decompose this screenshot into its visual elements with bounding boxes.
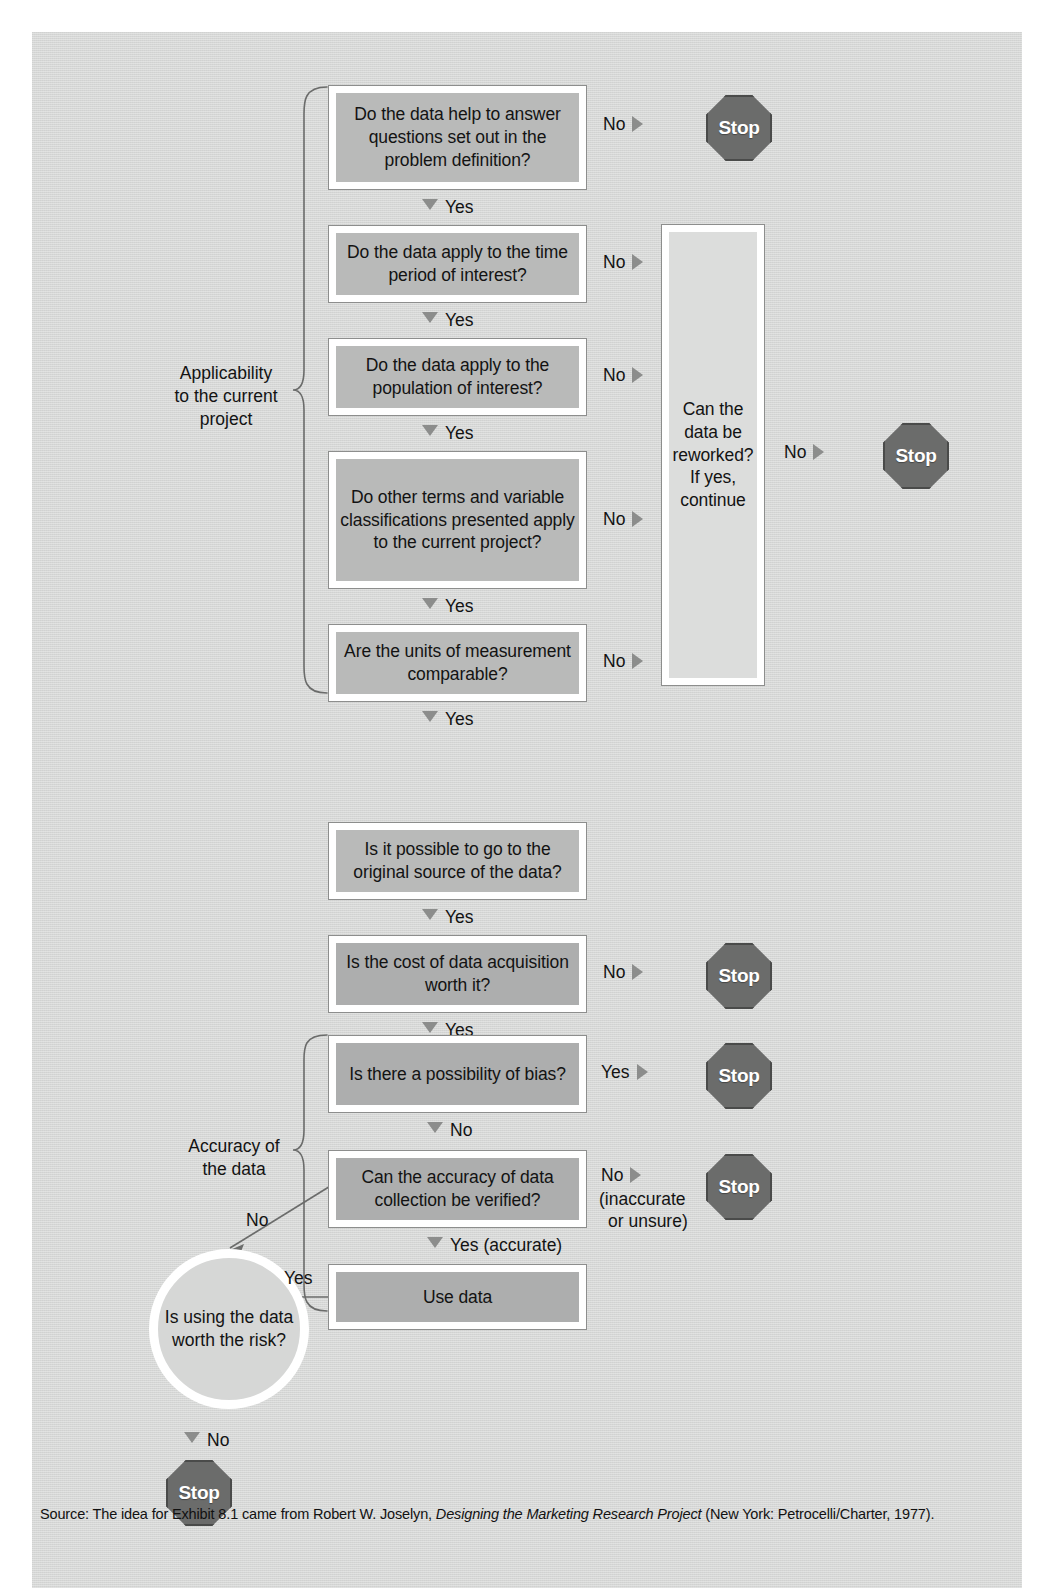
connector-q1-no-label: No bbox=[603, 114, 625, 136]
arrow-down-icon bbox=[422, 199, 438, 210]
node-q6-label: Is it possible to go to the original sou… bbox=[336, 830, 579, 892]
connector-q6-yes: Yes bbox=[422, 907, 474, 929]
connector-q4-yes: Yes bbox=[422, 596, 474, 618]
node-q5-units-of-measurement[interactable]: Are the units of measurement comparable? bbox=[328, 624, 587, 702]
connector-q4-no-label: No bbox=[603, 509, 625, 531]
connector-risk-yes: Yes bbox=[284, 1268, 313, 1290]
node-q1-label: Do the data help to answer questions set… bbox=[336, 93, 579, 182]
applicability-line-3: project bbox=[162, 408, 290, 431]
connector-q5-yes: Yes bbox=[422, 709, 474, 731]
connector-q3-no-label: No bbox=[603, 365, 625, 387]
stop-node-q9-accuracy[interactable]: Stop bbox=[706, 1154, 772, 1220]
connector-q9-no-detail: (inaccurate or unsure) bbox=[599, 1189, 688, 1233]
connector-q6-yes-label: Yes bbox=[445, 907, 474, 929]
arrow-right-icon bbox=[632, 254, 643, 270]
connector-q2-no-label: No bbox=[603, 252, 625, 274]
connector-risk-no-outbound-label: No bbox=[207, 1430, 229, 1452]
applicability-line-1: Applicability bbox=[162, 362, 290, 385]
connector-q8-no-label: No bbox=[450, 1120, 472, 1142]
accuracy-line-2: the data bbox=[178, 1158, 290, 1181]
connector-q1-no: No bbox=[603, 114, 643, 136]
node-q5-label: Are the units of measurement comparable? bbox=[336, 632, 579, 694]
connector-q2-yes-label: Yes bbox=[445, 310, 474, 332]
node-q8-possibility-of-bias[interactable]: Is there a possibility of bias? bbox=[328, 1035, 587, 1113]
applicability-line-2: to the current bbox=[162, 385, 290, 408]
node-use-data[interactable]: Use data bbox=[328, 1264, 587, 1330]
connector-q9-no-detail-line-2: or unsure) bbox=[608, 1211, 688, 1233]
node-q2-time-period[interactable]: Do the data apply to the time period of … bbox=[328, 225, 587, 303]
node-q7-cost-of-acquisition[interactable]: Is the cost of data acquisition worth it… bbox=[328, 935, 587, 1013]
stop-label: Stop bbox=[718, 1176, 759, 1198]
arrow-right-icon bbox=[632, 964, 643, 980]
connector-rework-no: No bbox=[784, 442, 824, 464]
stop-node-q1[interactable]: Stop bbox=[706, 95, 772, 161]
arrow-right-icon bbox=[630, 1167, 641, 1183]
connector-q7-no: No bbox=[603, 962, 643, 984]
node-rework-label: Can the data be reworked? If yes, contin… bbox=[669, 232, 757, 678]
node-q2-label: Do the data apply to the time period of … bbox=[336, 233, 579, 295]
stop-node-rework[interactable]: Stop bbox=[883, 423, 949, 489]
group-label-applicability: Applicability to the current project bbox=[162, 362, 290, 431]
node-q1-answers-problem-definition[interactable]: Do the data help to answer questions set… bbox=[328, 85, 587, 190]
node-q9-accuracy-verified[interactable]: Can the accuracy of data collection be v… bbox=[328, 1150, 587, 1228]
accuracy-line-1: Accuracy of bbox=[178, 1135, 290, 1158]
connector-risk-no-outbound: No bbox=[184, 1430, 229, 1452]
connector-q4-yes-label: Yes bbox=[445, 596, 474, 618]
source-suffix: (New York: Petrocelli/Charter, 1977). bbox=[701, 1506, 934, 1522]
connector-q1-yes: Yes bbox=[422, 197, 474, 219]
arrow-right-icon bbox=[632, 653, 643, 669]
stop-label: Stop bbox=[178, 1482, 219, 1504]
connector-q9-yes: Yes (accurate) bbox=[427, 1235, 562, 1257]
flowchart-panel: Applicability to the current project Acc… bbox=[32, 32, 1022, 1588]
node-q4-label: Do other terms and variable classificati… bbox=[336, 459, 579, 581]
connector-q3-yes-label: Yes bbox=[445, 423, 474, 445]
arrow-right-icon bbox=[813, 444, 824, 460]
arrow-right-icon bbox=[632, 367, 643, 383]
arrow-down-icon bbox=[427, 1122, 443, 1133]
connector-q9-yes-label: Yes (accurate) bbox=[450, 1235, 562, 1257]
node-use-data-label: Use data bbox=[336, 1272, 579, 1322]
arrow-down-icon bbox=[422, 598, 438, 609]
arrow-down-icon bbox=[422, 425, 438, 436]
connector-q7-no-label: No bbox=[603, 962, 625, 984]
stop-label: Stop bbox=[718, 117, 759, 139]
connector-q9-no-detail-line-1: (inaccurate bbox=[599, 1189, 688, 1211]
connector-risk-no-inbound-label: No bbox=[246, 1210, 268, 1232]
connector-q4-no: No bbox=[603, 509, 643, 531]
connector-q1-yes-label: Yes bbox=[445, 197, 474, 219]
connector-q3-yes: Yes bbox=[422, 423, 474, 445]
node-q3-population[interactable]: Do the data apply to the population of i… bbox=[328, 338, 587, 416]
arrow-right-icon bbox=[632, 116, 643, 132]
connector-q8-no: No bbox=[427, 1120, 472, 1142]
node-q7-label: Is the cost of data acquisition worth it… bbox=[336, 943, 579, 1005]
arrow-down-icon bbox=[427, 1237, 443, 1248]
arrow-down-icon bbox=[422, 711, 438, 722]
connector-q8-yes: Yes bbox=[601, 1062, 648, 1084]
group-label-accuracy: Accuracy of the data bbox=[178, 1135, 290, 1181]
stop-label: Stop bbox=[895, 445, 936, 467]
connector-q5-no: No bbox=[603, 651, 643, 673]
stop-node-q8-bias[interactable]: Stop bbox=[706, 1043, 772, 1109]
stop-node-q7[interactable]: Stop bbox=[706, 943, 772, 1009]
stop-label: Stop bbox=[718, 965, 759, 987]
node-q3-label: Do the data apply to the population of i… bbox=[336, 346, 579, 408]
connector-q3-no: No bbox=[603, 365, 643, 387]
connector-q9-no-label: No bbox=[601, 1165, 623, 1187]
arrow-down-icon bbox=[422, 909, 438, 920]
connector-q2-no: No bbox=[603, 252, 643, 274]
node-q4-terms-classifications[interactable]: Do other terms and variable classificati… bbox=[328, 451, 587, 589]
source-prefix: Source: The idea for Exhibit 8.1 came fr… bbox=[40, 1506, 436, 1522]
connector-q8-yes-label: Yes bbox=[601, 1062, 630, 1084]
arrow-down-icon bbox=[422, 1022, 438, 1033]
connector-q5-no-label: No bbox=[603, 651, 625, 673]
arrow-down-icon bbox=[422, 312, 438, 323]
node-q6-original-source[interactable]: Is it possible to go to the original sou… bbox=[328, 822, 587, 900]
source-title: Designing the Marketing Research Project bbox=[436, 1506, 702, 1522]
arrow-right-icon bbox=[637, 1064, 648, 1080]
node-q9-label: Can the accuracy of data collection be v… bbox=[336, 1158, 579, 1220]
connector-q5-yes-label: Yes bbox=[445, 709, 474, 731]
node-rework-data[interactable]: Can the data be reworked? If yes, contin… bbox=[661, 224, 765, 686]
node-q8-label: Is there a possibility of bias? bbox=[336, 1043, 579, 1105]
connector-risk-no-inbound: No bbox=[246, 1210, 268, 1232]
arrow-down-icon bbox=[184, 1432, 200, 1443]
